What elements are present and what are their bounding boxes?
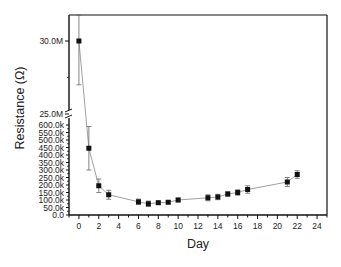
x-tick-label: 18 — [253, 221, 263, 231]
data-point — [86, 146, 91, 151]
y-tick-label: 30.0M — [39, 36, 63, 46]
x-tick-label: 4 — [116, 221, 121, 231]
x-axis-ticks: 024681012141618202224 — [69, 215, 327, 231]
data-point — [166, 200, 171, 205]
x-tick-label: 8 — [156, 221, 161, 231]
data-point — [295, 172, 300, 177]
x-tick-label: 22 — [292, 221, 302, 231]
data-point — [205, 195, 210, 200]
x-axis-label: Day — [187, 237, 210, 251]
y-tick-label: 600.0k — [38, 120, 64, 130]
data-point — [146, 201, 151, 206]
x-tick-label: 0 — [77, 221, 82, 231]
data-point — [96, 183, 101, 188]
x-tick-label: 12 — [193, 221, 203, 231]
x-tick-label: 16 — [233, 221, 243, 231]
y-axis-ticks: 0.050.0k100.0k150.0k200.0k250.0k300.0k35… — [38, 36, 69, 220]
x-tick-label: 6 — [136, 221, 141, 231]
data-point — [76, 39, 81, 44]
data-point — [245, 187, 250, 192]
data-point — [106, 192, 111, 197]
data-series — [76, 15, 299, 206]
x-tick-label: 2 — [96, 221, 101, 231]
data-point — [136, 199, 141, 204]
data-point — [215, 195, 220, 200]
data-point — [225, 192, 230, 197]
y-axis-label: Resistance (Ω) — [13, 67, 27, 150]
x-tick-label: 20 — [273, 221, 283, 231]
x-tick-label: 24 — [312, 221, 322, 231]
data-point — [285, 180, 290, 185]
chart: 0.050.0k100.0k150.0k200.0k250.0k300.0k35… — [0, 0, 341, 267]
data-point — [176, 198, 181, 203]
data-point — [156, 200, 161, 205]
y-tick-label: 25.0M — [39, 109, 63, 119]
x-tick-label: 10 — [173, 221, 183, 231]
x-tick-label: 14 — [213, 221, 223, 231]
data-point — [235, 190, 240, 195]
